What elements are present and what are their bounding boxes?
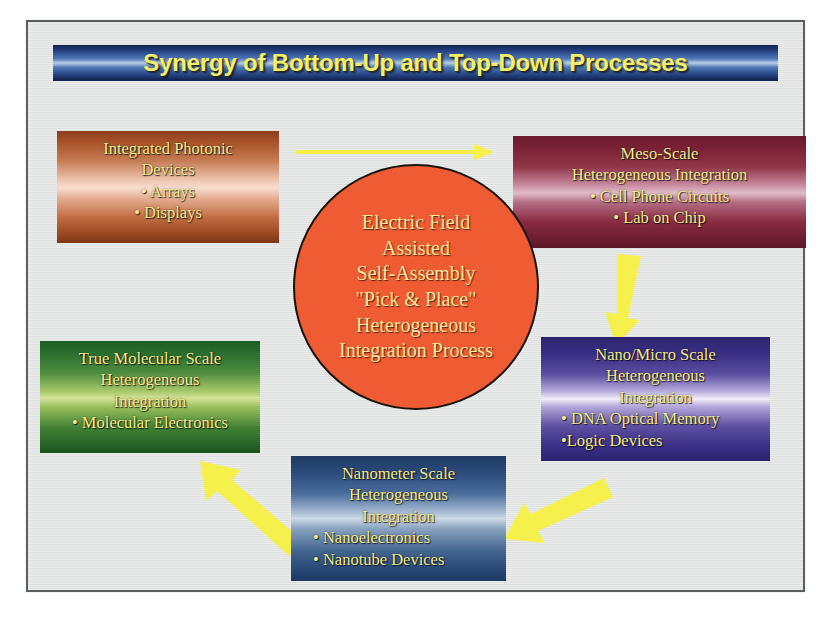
node-heading-line: Heterogeneous <box>297 484 500 505</box>
node-bullet: • Nanotube Devices <box>297 549 500 570</box>
node-integrated-photonic-devices[interactable]: Integrated Photonic Devices • Arrays • D… <box>57 131 279 243</box>
node-bullet: • Displays <box>63 202 273 223</box>
node-bullet: • DNA Optical Memory <box>547 408 764 429</box>
center-line: Self-Assembly <box>357 261 476 287</box>
node-bullet: • Cell Phone Circuits <box>519 186 800 207</box>
node-bullet: • Nanoelectronics <box>297 527 500 548</box>
node-heading-line: Devices <box>63 159 273 180</box>
center-line: Heterogeneous <box>356 313 476 339</box>
node-nano-micro-scale-integration[interactable]: Nano/Micro Scale Heterogeneous Integrati… <box>541 337 770 461</box>
node-meso-scale-heterogeneous-integration[interactable]: Meso-Scale Heterogeneous Integration • C… <box>513 136 806 248</box>
node-bullet: • Arrays <box>63 181 273 202</box>
node-heading-line: Heterogeneous <box>46 369 254 390</box>
center-line: Assisted <box>382 236 450 262</box>
center-line: Electric Field <box>362 210 470 236</box>
node-bullet: • Molecular Electronics <box>46 412 254 433</box>
center-process-circle[interactable]: Electric Field Assisted Self-Assembly "P… <box>293 164 539 410</box>
node-nanometer-scale-integration[interactable]: Nanometer Scale Heterogeneous Integratio… <box>291 456 506 581</box>
node-heading-line: Integration <box>46 391 254 412</box>
node-heading-line: Nano/Micro Scale <box>547 344 764 365</box>
slide-title-text: Synergy of Bottom-Up and Top-Down Proces… <box>143 49 687 77</box>
node-true-molecular-scale-integration[interactable]: True Molecular Scale Heterogeneous Integ… <box>40 341 260 453</box>
node-bullet: • Lab on Chip <box>519 207 800 228</box>
node-heading-line: Heterogeneous Integration <box>519 164 800 185</box>
node-heading-line: Nanometer Scale <box>297 463 500 484</box>
node-heading-line: Integration <box>547 387 764 408</box>
node-heading-line: Heterogeneous <box>547 365 764 386</box>
center-line: "Pick & Place" <box>356 287 477 313</box>
node-heading-line: Integration <box>297 506 500 527</box>
node-heading-line: True Molecular Scale <box>46 348 254 369</box>
node-heading-line: Meso-Scale <box>519 143 800 164</box>
slide-canvas: Synergy of Bottom-Up and Top-Down Proces… <box>0 0 831 618</box>
center-line: Integration Process <box>339 338 493 364</box>
node-bullet: •Logic Devices <box>547 430 764 451</box>
node-heading-line: Integrated Photonic <box>63 138 273 159</box>
slide-title-banner: Synergy of Bottom-Up and Top-Down Proces… <box>53 45 778 81</box>
